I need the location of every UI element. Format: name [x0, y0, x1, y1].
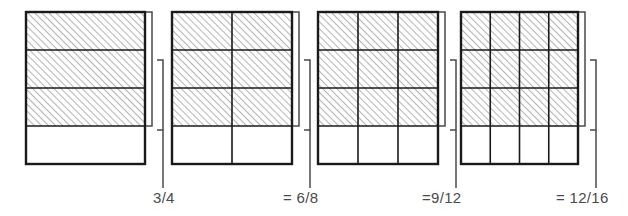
labels-layer: 3/4= 6/8=9/12= 12/16 [153, 189, 609, 206]
shaded-region [318, 12, 438, 126]
inner-bracket [439, 12, 445, 126]
unshaded-region [26, 126, 145, 164]
panels-layer [26, 12, 578, 164]
bracket-group-3 [439, 12, 456, 188]
fraction-panel-1 [26, 12, 145, 164]
outer-bracket [304, 60, 310, 130]
outer-bracket [450, 60, 456, 130]
inner-bracket [146, 12, 152, 126]
fraction-label-2: = 6/8 [283, 189, 318, 206]
fraction-label-4: = 12/16 [556, 189, 609, 206]
unshaded-region [318, 126, 438, 164]
outer-bracket [157, 60, 163, 130]
bracket-group-1 [146, 12, 163, 188]
fraction-label-3: =9/12 [422, 189, 461, 206]
fraction-label-1: 3/4 [153, 189, 175, 206]
fraction-panel-2 [172, 12, 292, 164]
bracket-group-4 [579, 12, 596, 188]
shaded-region [26, 12, 145, 126]
inner-bracket [579, 12, 585, 126]
fraction-panel-4 [461, 12, 578, 164]
fraction-panel-3 [318, 12, 438, 164]
outer-bracket [590, 60, 596, 130]
figure-canvas: 3/4= 6/8=9/12= 12/16 [0, 0, 628, 216]
bracket-group-2 [293, 12, 310, 188]
inner-bracket [293, 12, 299, 126]
equivalent-fractions-figure: 3/4= 6/8=9/12= 12/16 [0, 0, 628, 216]
